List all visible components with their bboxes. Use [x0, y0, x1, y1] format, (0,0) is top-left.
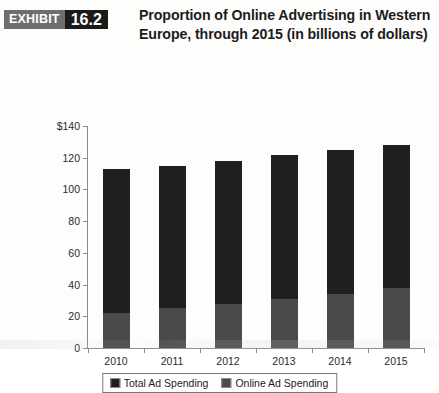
- exhibit-badge-number: 16.2: [65, 10, 108, 29]
- plot-area: 020406080100120$140: [88, 126, 424, 348]
- y-axis-tick: [83, 316, 88, 317]
- bar-2015[interactable]: [383, 145, 410, 348]
- legend-item-total-ad-spending: Total Ad Spending: [110, 377, 209, 389]
- x-axis-label-2012: 2012: [216, 355, 239, 367]
- y-axis-tick: [83, 285, 88, 286]
- y-axis-label: 20: [68, 310, 80, 322]
- bar-2013[interactable]: [271, 155, 298, 348]
- bar-segment-total-2010[interactable]: [103, 169, 130, 313]
- y-axis-label: 120: [62, 152, 80, 164]
- bar-segment-total-2012[interactable]: [215, 161, 242, 304]
- y-axis-label: 100: [62, 183, 80, 195]
- bar-segment-total-2015[interactable]: [383, 145, 410, 288]
- exhibit-badge-word: EXHIBIT: [4, 10, 65, 29]
- bar-segment-total-2013[interactable]: [271, 155, 298, 299]
- x-axis-label-2014: 2014: [328, 355, 351, 367]
- x-axis-label-2011: 2011: [161, 355, 184, 367]
- legend-item-online-ad-spending: Online Ad Spending: [221, 377, 328, 389]
- x-axis-label-2015: 2015: [384, 355, 407, 367]
- exhibit-title: Proportion of Online Advertising in West…: [139, 6, 435, 43]
- bar-2014[interactable]: [327, 150, 354, 348]
- bar-2012[interactable]: [215, 161, 242, 348]
- x-axis-label-2013: 2013: [272, 355, 295, 367]
- legend-label-total: Total Ad Spending: [124, 377, 209, 389]
- chart-legend: Total Ad Spending Online Ad Spending: [102, 373, 337, 393]
- exhibit-header: EXHIBIT 16.2 Proportion of Online Advert…: [0, 6, 439, 52]
- y-axis-label: 80: [68, 215, 80, 227]
- scan-artifact: [0, 340, 439, 349]
- bar-segment-online-2015[interactable]: [383, 288, 410, 348]
- y-axis-label: 60: [68, 247, 80, 259]
- legend-swatch-online-icon: [221, 378, 231, 388]
- chart-container: 020406080100120$140 20102011201220132014…: [0, 56, 439, 349]
- x-axis-label-2010: 2010: [104, 355, 127, 367]
- bar-2011[interactable]: [159, 166, 186, 348]
- y-axis-tick: [83, 126, 88, 127]
- bar-segment-total-2014[interactable]: [327, 150, 354, 294]
- y-axis-tick: [83, 158, 88, 159]
- legend-swatch-total-icon: [110, 378, 120, 388]
- legend-label-online: Online Ad Spending: [235, 377, 328, 389]
- exhibit-badge: EXHIBIT 16.2: [4, 10, 108, 29]
- y-axis-tick: [83, 253, 88, 254]
- y-axis-label: 40: [68, 279, 80, 291]
- y-axis-tick: [83, 189, 88, 190]
- y-axis-tick: [83, 221, 88, 222]
- bar-segment-total-2011[interactable]: [159, 166, 186, 309]
- bar-2010[interactable]: [103, 169, 130, 348]
- y-axis-label: $140: [57, 120, 80, 132]
